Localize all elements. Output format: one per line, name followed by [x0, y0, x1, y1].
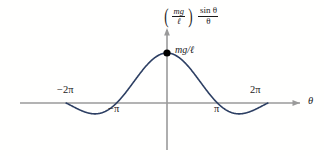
y-axis-expression: ( mg ℓ ) sin θ θ: [163, 6, 218, 27]
y-axis-arrowhead-icon: [164, 28, 170, 36]
fraction-denominator-l: ℓ: [175, 17, 182, 26]
sinc-function-figure: ( mg ℓ ) sin θ θ mg/ℓ −2π −π π 2π θ: [0, 0, 324, 156]
x-axis-arrowhead-icon: [293, 100, 301, 106]
x-axis-name-theta: θ: [308, 96, 313, 107]
peak-marker-dot: [163, 49, 170, 56]
fraction-numerator-mg: mg: [172, 7, 185, 16]
open-paren: (: [164, 8, 168, 24]
peak-value-label: mg/ℓ: [175, 45, 194, 55]
mg-over-l-fraction: mg ℓ: [172, 7, 185, 27]
x-tick-label-neg-2pi: −2π: [57, 85, 73, 96]
sin-theta-over-theta-fraction: sin θ θ: [198, 6, 218, 27]
fraction-numerator-sin-theta: sin θ: [198, 6, 218, 16]
close-paren: ): [189, 8, 193, 24]
plot-canvas: [0, 0, 324, 156]
y-axis: [164, 28, 170, 150]
x-tick-label-2pi: 2π: [250, 85, 261, 96]
x-axis: [20, 100, 300, 106]
fraction-denominator-theta: θ: [205, 17, 212, 27]
x-tick-label-neg-pi: −π: [108, 104, 119, 115]
x-tick-label-pi: π: [214, 104, 219, 115]
